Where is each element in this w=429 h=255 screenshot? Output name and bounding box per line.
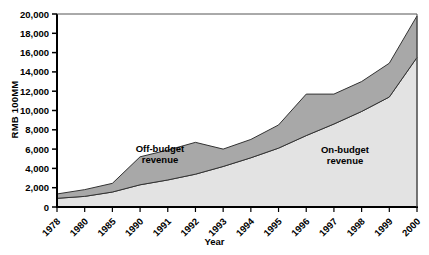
y-tick-label: 8,000 (25, 124, 49, 135)
off-budget-label-line1: Off-budget (136, 143, 185, 154)
x-tick-label: 1996 (289, 216, 312, 239)
off-budget-label: Off-budgetrevenue (136, 143, 185, 165)
x-tick-label: 1993 (206, 216, 229, 239)
y-tick-label: 14,000 (20, 66, 49, 77)
x-tick-label: 1997 (317, 216, 340, 239)
area-chart-svg: 02,0004,0006,0008,00010,00012,00014,0001… (0, 0, 429, 255)
x-tick-label: 1990 (123, 216, 146, 239)
y-tick-label: 0 (44, 202, 49, 213)
chart-container: RMB 100MM Year 02,0004,0006,0008,00010,0… (0, 0, 429, 255)
x-axis-ticks: 1978198019851990199119921993199419951996… (40, 207, 423, 238)
on-budget-label-line2: revenue (327, 155, 363, 166)
x-tick-label: 1992 (178, 216, 201, 239)
y-tick-label: 20,000 (20, 9, 49, 20)
y-tick-label: 16,000 (20, 47, 49, 58)
y-tick-label: 18,000 (20, 28, 49, 39)
on-budget-label-line1: On-budget (321, 144, 370, 155)
x-tick-label: 1998 (344, 216, 367, 239)
y-tick-label: 12,000 (20, 86, 49, 97)
y-tick-label: 4,000 (25, 163, 49, 174)
x-tick-label: 1994 (234, 215, 257, 238)
on-budget-label: On-budgetrevenue (321, 144, 370, 166)
x-tick-label: 1991 (150, 215, 173, 238)
x-tick-label: 1980 (67, 216, 90, 239)
x-tick-label: 1995 (261, 215, 284, 238)
y-tick-label: 10,000 (20, 105, 49, 116)
x-tick-label: 1985 (95, 215, 118, 238)
y-axis-title: RMB 100MM (9, 50, 20, 170)
y-tick-label: 6,000 (25, 144, 49, 155)
x-axis-title: Year (0, 236, 429, 247)
x-tick-label: 2000 (400, 216, 423, 239)
x-tick-label: 1999 (372, 216, 395, 239)
y-axis-ticks: 02,0004,0006,0008,00010,00012,00014,0001… (20, 9, 57, 213)
y-tick-label: 2,000 (25, 182, 49, 193)
x-tick-label: 1978 (40, 216, 63, 239)
off-budget-label-line2: revenue (142, 154, 178, 165)
